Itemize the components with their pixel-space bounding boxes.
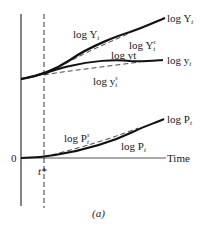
label-log-P-s: log Pts: [64, 130, 89, 148]
t-star-label: t*: [38, 166, 47, 177]
label-log-P-mid: log Pt: [121, 141, 146, 156]
label-log-Y-left: log Yt: [73, 29, 99, 44]
label-log-y-end: log yt: [167, 55, 191, 70]
label-log-y-s: log yts: [93, 73, 118, 91]
label-log-P-end: log Pt: [167, 114, 192, 129]
curve-log-y: [21, 60, 163, 79]
label-log-Y-end: log Yt: [167, 13, 193, 28]
label-log-yt-mid: log yt: [111, 50, 136, 61]
origin-label: 0: [11, 153, 17, 164]
time-axis-label: Time: [167, 153, 190, 164]
figure-caption: (a): [92, 208, 105, 219]
